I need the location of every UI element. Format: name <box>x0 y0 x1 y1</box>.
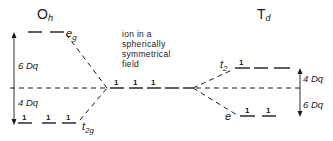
svg-text:ion in a: ion in a <box>122 29 152 39</box>
e-label: e <box>225 110 231 122</box>
oh-energy-arrow <box>12 32 17 125</box>
svg-text:field: field <box>122 59 139 69</box>
t2g-connector <box>80 88 107 120</box>
crystal-field-diagram: Oh eg 1 1 1 t2g 6 Dq 4 Dq ion in a spher… <box>0 0 333 141</box>
t2g-electrons: 1 1 1 <box>22 113 71 122</box>
td-6dq-label: 6 Dq <box>303 99 324 110</box>
electron-up-icon: 1 <box>66 113 71 122</box>
electron-up-icon: 1 <box>151 78 156 87</box>
electron-up-icon: 1 <box>22 113 27 122</box>
electron-up-icon: 1 <box>266 106 271 115</box>
electron-up-icon: 1 <box>114 78 119 87</box>
t2g-label: t2g <box>82 120 95 135</box>
svg-text:spherically: spherically <box>122 39 166 49</box>
electron-up-icon: 1 <box>133 78 138 87</box>
electron-up-icon: 1 <box>46 113 51 122</box>
free-ion-electrons: 1 1 1 <box>114 78 156 87</box>
free-ion-caption: ion in a spherically symmetrical field <box>122 29 171 69</box>
e-electrons: 1 1 <box>245 106 271 115</box>
td-energy-arrow <box>298 68 303 117</box>
electron-up-icon: 1 <box>245 106 250 115</box>
svg-text:symmetrical: symmetrical <box>122 49 171 59</box>
electron-up-icon: 1 <box>239 58 244 67</box>
oh-title: Oh <box>37 6 53 23</box>
eg-connector <box>66 34 107 88</box>
td-title: Td <box>257 6 272 23</box>
eg-label: eg <box>66 27 77 42</box>
oh-4dq-label: 4 Dq <box>18 97 39 108</box>
t2-label: t2 <box>220 58 228 73</box>
oh-6dq-label: 6 Dq <box>18 60 39 71</box>
td-4dq-label: 4 Dq <box>303 73 324 84</box>
